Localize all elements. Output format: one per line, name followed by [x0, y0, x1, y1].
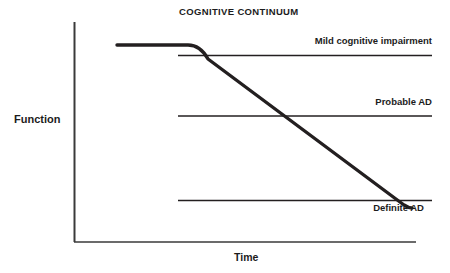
chart-title: COGNITIVE CONTINUUM: [179, 7, 299, 17]
x-axis-title: Time: [234, 252, 258, 263]
threshold-label-mild-cognitive-impairment: Mild cognitive impairment: [315, 36, 432, 46]
threshold-label-definite-ad: Definite AD: [373, 203, 424, 213]
y-axis-title: Function: [14, 114, 60, 125]
cognitive-continuum-figure: COGNITIVE CONTINUUM Function Time Mild c…: [0, 0, 450, 273]
function-decline-curve: [117, 45, 412, 208]
threshold-label-probable-ad: Probable AD: [375, 97, 432, 107]
